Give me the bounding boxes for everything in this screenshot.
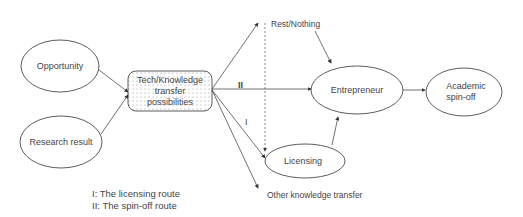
academic-spinoff-label: Academic spin-off <box>446 81 486 103</box>
entrepreneur-label: Entrepreneur <box>331 85 384 96</box>
diagram-canvas <box>0 0 523 217</box>
opportunity-label: Opportunity <box>37 61 84 72</box>
spinoff-line-1: Academic <box>446 81 486 92</box>
tech-transfer-label: Tech/Knowledge transfer possibilities <box>137 75 203 108</box>
licensing-to-entrepreneur-arrow <box>332 117 338 145</box>
tech-to-licensing-arrow <box>212 90 265 158</box>
other-transfer-label: Other knowledge transfer <box>267 190 362 201</box>
rest-nothing-label: Rest/Nothing <box>271 19 320 30</box>
tech-transfer-line-2: transfer <box>137 86 203 97</box>
spinoff-line-2: spin-off <box>446 92 486 103</box>
tech-to-other-arrow <box>212 90 258 188</box>
research-to-tech-arrow <box>101 95 128 134</box>
legend: I: The licensing route II: The spin-off … <box>92 188 180 212</box>
tech-transfer-line-3: possibilities <box>137 97 203 108</box>
licensing-label: Licensing <box>284 156 322 167</box>
opportunity-to-tech-arrow <box>99 70 128 92</box>
research-result-label: Research result <box>29 137 92 148</box>
tech-to-rest-arrow <box>212 23 258 89</box>
rest-to-entrepreneur-arrow <box>315 31 331 63</box>
legend-item-spinoff: II: The spin-off route <box>92 200 180 212</box>
legend-item-licensing: I: The licensing route <box>92 188 180 200</box>
tech-transfer-line-1: Tech/Knowledge <box>137 75 203 86</box>
route-ii-marker: II <box>238 80 243 91</box>
route-i-marker: I <box>245 117 248 128</box>
